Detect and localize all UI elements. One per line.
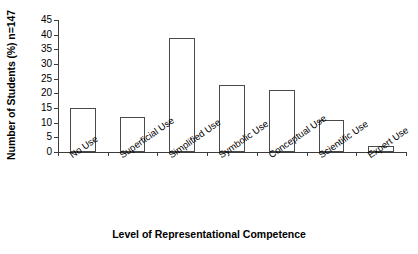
y-axis-tick-label: 0 <box>46 147 52 157</box>
y-axis-tick-label: 10 <box>41 118 52 128</box>
y-axis-tick-label: 40 <box>41 30 52 40</box>
y-axis-tick-label: 15 <box>41 103 52 113</box>
y-axis-title: Number of Students (%) n=147 <box>0 0 22 170</box>
y-axis-tick-mark <box>54 20 58 21</box>
y-axis-tick-mark <box>54 93 58 94</box>
y-axis-tick-mark <box>54 137 58 138</box>
y-axis-tick-label: 45 <box>41 15 52 25</box>
y-axis-tick-mark <box>54 123 58 124</box>
y-axis-tick-label: 20 <box>41 88 52 98</box>
bar-chart-figure: Number of Students (%) n=147 05101520253… <box>0 0 418 254</box>
y-axis-line <box>58 20 59 152</box>
y-axis-tick-label: 35 <box>41 44 52 54</box>
x-axis-category-labels: No UseSuperficial UseSimplified UseSymbo… <box>58 152 406 214</box>
x-axis-title: Level of Representational Competence <box>0 228 418 240</box>
y-axis-tick-label: 5 <box>46 132 52 142</box>
y-axis-tick-label: 25 <box>41 74 52 84</box>
y-axis-tick-label: 30 <box>41 59 52 69</box>
y-axis-tick-mark <box>54 79 58 80</box>
x-axis-tick-mark <box>406 152 407 156</box>
y-axis-tick-mark <box>54 64 58 65</box>
y-axis-tick-mark <box>54 108 58 109</box>
y-axis-tick-mark <box>54 49 58 50</box>
y-axis-title-text: Number of Students (%) n=147 <box>5 10 17 160</box>
y-axis-tick-mark <box>54 35 58 36</box>
